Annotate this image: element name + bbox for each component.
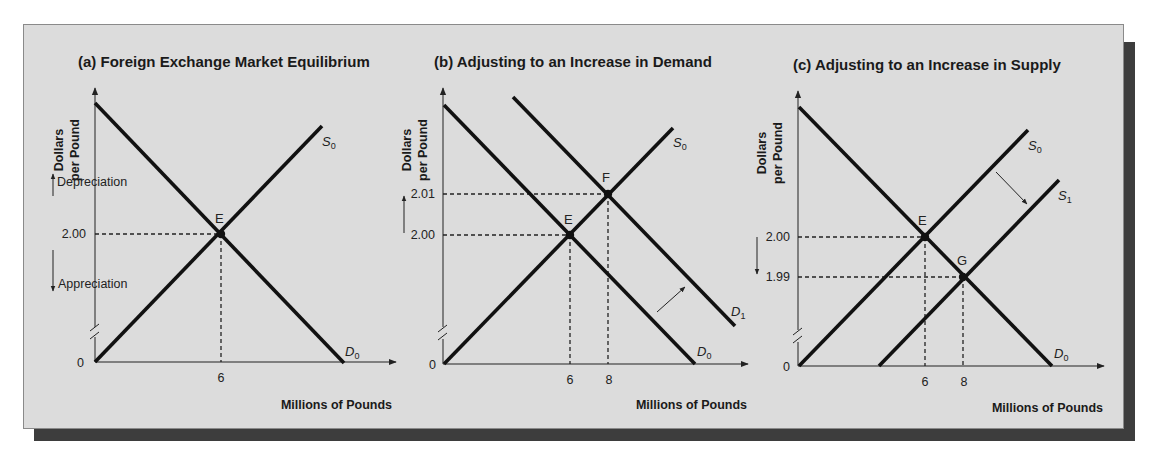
panel-b-ylabel-line2: per Pound — [416, 119, 430, 181]
panel-c-xtick-6: 6 — [922, 375, 929, 389]
charts-canvas: (a) Foreign Exchange Market Equilibrium … — [0, 0, 1154, 457]
panel-a-depreciation-label: Depreciation — [57, 175, 127, 189]
panel-c-equilibrium-point-e — [921, 233, 929, 241]
panel-b-y-axis-label: Dollars per Pound — [400, 119, 430, 181]
panel-a-xtick-6: 6 — [218, 371, 225, 385]
panel-c-supply-curve-s1 — [879, 180, 1059, 366]
panel-b-equilibrium-point-f — [604, 190, 612, 198]
panel-b-ylabel-line1: Dollars — [400, 129, 414, 171]
panel-b-s0-label: S0 — [673, 135, 687, 152]
chart-panel-a: (a) Foreign Exchange Market Equilibrium … — [52, 53, 396, 412]
panel-a-ylabel-line2: per Pound — [68, 119, 82, 181]
chart-panel-c: (c) Adjusting to an Increase in Supply D… — [755, 56, 1104, 415]
panel-c-s1-label: S1 — [1058, 188, 1072, 205]
panel-a-point-e-label: E — [215, 211, 224, 226]
panel-c-xtick-8: 8 — [961, 375, 968, 389]
panel-a-origin-label: 0 — [77, 356, 84, 370]
panel-c-s0-label: S0 — [1028, 138, 1042, 155]
panel-a-supply-curve-s0 — [95, 126, 322, 362]
panel-b-ytick-2.00: 2.00 — [411, 228, 435, 242]
panel-c-title: (c) Adjusting to an Increase in Supply — [793, 56, 1061, 73]
panel-a-ytick-2.00: 2.00 — [62, 227, 86, 241]
panel-b-ytick-2.01: 2.01 — [411, 187, 435, 201]
panel-c-ytick-1.99: 1.99 — [766, 270, 790, 284]
panel-b-demand-shift-arrow-icon — [657, 287, 685, 312]
panel-c-ylabel-line2: per Pound — [771, 122, 785, 184]
panel-a-y-axis-label: Dollars per Pound — [52, 119, 82, 181]
panel-a-d0-label: D0 — [345, 344, 359, 361]
panel-c-d0-label: D0 — [1054, 346, 1068, 363]
panel-c-axis-break-icon — [793, 328, 803, 343]
panel-b-title: (b) Adjusting to an Increase in Demand — [434, 53, 712, 70]
panel-b-d1-label: D1 — [731, 304, 745, 321]
panel-b-xtick-6: 6 — [567, 373, 574, 387]
panel-b-point-e-label: E — [564, 212, 573, 227]
panel-a-title: (a) Foreign Exchange Market Equilibrium — [78, 53, 370, 70]
panel-b-supply-curve-s0 — [444, 128, 673, 364]
panel-b-xtick-8: 8 — [606, 373, 613, 387]
panel-a-x-axis-label: Millions of Pounds — [281, 398, 392, 412]
panel-b-point-f-label: F — [602, 170, 610, 185]
panel-b-d0-label: D0 — [697, 344, 711, 361]
chart-panel-b: (b) Adjusting to an Increase in Demand D… — [400, 53, 748, 412]
panel-b-origin-label: 0 — [429, 358, 436, 372]
panel-c-point-g-label: G — [957, 253, 967, 268]
panel-b-x-axis-label: Millions of Pounds — [636, 398, 747, 412]
panel-b-equilibrium-point-e — [566, 231, 574, 239]
panel-c-supply-shift-arrow-icon — [996, 172, 1027, 204]
figure: (a) Foreign Exchange Market Equilibrium … — [0, 0, 1154, 457]
panel-a-s0-label: S0 — [322, 134, 336, 151]
panel-c-point-e-label: E — [918, 213, 927, 228]
panel-a-equilibrium-point-e — [217, 230, 225, 238]
panel-c-ylabel-line1: Dollars — [755, 132, 769, 174]
panel-b-axis-break-icon — [438, 325, 448, 340]
panel-c-x-axis-label: Millions of Pounds — [992, 401, 1103, 415]
panel-c-equilibrium-point-g — [959, 273, 967, 281]
panel-c-origin-label: 0 — [783, 360, 790, 374]
panel-c-y-axis-label: Dollars per Pound — [755, 122, 785, 184]
panel-a-appreciation-label: Appreciation — [58, 277, 128, 291]
panel-a-ylabel-line1: Dollars — [52, 129, 66, 171]
panel-c-ytick-2.00: 2.00 — [766, 230, 790, 244]
